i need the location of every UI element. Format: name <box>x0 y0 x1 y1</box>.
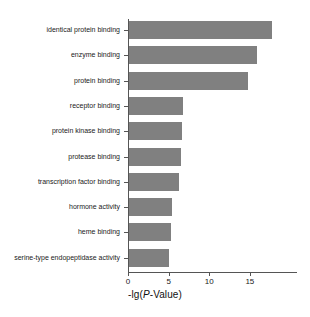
bar <box>129 148 181 166</box>
bar <box>129 21 272 39</box>
bar-fill <box>129 97 183 115</box>
bar-fill <box>129 148 181 166</box>
x-axis-tick-label: 0 <box>126 277 130 287</box>
y-axis-tick <box>124 182 128 183</box>
category-label: heme binding <box>0 227 120 236</box>
x-axis-tick-label: 15 <box>245 277 254 287</box>
category-label: protein kinase binding <box>0 126 120 135</box>
plot-area: 051015 <box>128 19 297 272</box>
category-axis-labels: identical protein bindingenzyme bindingp… <box>0 19 124 272</box>
bar <box>129 97 183 115</box>
bar-fill <box>129 198 172 216</box>
bar <box>129 223 171 241</box>
x-axis-title: -lg(P-Value) <box>0 289 310 300</box>
x-axis-tick <box>250 272 251 276</box>
x-axis-tick <box>128 272 129 276</box>
category-label: enzyme binding <box>0 50 120 59</box>
y-axis-tick <box>124 258 128 259</box>
bar-fill <box>129 72 248 90</box>
y-axis-tick <box>124 30 128 31</box>
y-axis-tick <box>124 106 128 107</box>
bar-chart: identical protein bindingenzyme bindingp… <box>0 0 310 317</box>
x-axis-tick <box>169 272 170 276</box>
bar-fill <box>129 122 182 140</box>
bar-fill <box>129 223 171 241</box>
category-label: protein binding <box>0 76 120 85</box>
bar-fill <box>129 21 272 39</box>
bar-fill <box>129 173 179 191</box>
category-label: protease binding <box>0 152 120 161</box>
category-label: serine-type endopeptidase activity <box>0 253 120 262</box>
category-label: identical protein binding <box>0 25 120 34</box>
x-axis-tick-label: 5 <box>166 277 170 287</box>
bar <box>129 249 169 267</box>
y-axis-tick <box>124 131 128 132</box>
bar <box>129 72 248 90</box>
category-label: receptor binding <box>0 101 120 110</box>
bar <box>129 173 179 191</box>
x-axis-tick-label: 10 <box>205 277 214 287</box>
bar-fill <box>129 46 257 64</box>
bar-fill <box>129 249 169 267</box>
y-axis-tick <box>124 81 128 82</box>
bar <box>129 122 182 140</box>
y-axis-tick <box>124 157 128 158</box>
y-axis-tick <box>124 232 128 233</box>
category-label: transcription factor binding <box>0 177 120 186</box>
axis-title-italic-p: P <box>143 289 150 300</box>
x-axis-line <box>128 272 297 273</box>
axis-title-suffix: -Value) <box>150 289 182 300</box>
bar <box>129 46 257 64</box>
y-axis-tick <box>124 55 128 56</box>
axis-title-prefix: -lg( <box>128 289 143 300</box>
x-axis-tick <box>209 272 210 276</box>
bar <box>129 198 172 216</box>
y-axis-tick <box>124 207 128 208</box>
category-label: hormone activity <box>0 202 120 211</box>
